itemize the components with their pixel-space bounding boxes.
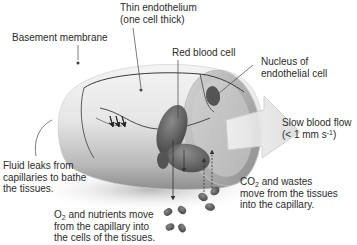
co2-wastes-label: CO2 and wastes move from the tissues int… <box>240 176 338 211</box>
thin-endothelium-label: Thin endothelium (one cell thick) <box>120 2 197 25</box>
capillary-diagram: Thin endothelium (one cell thick) Baseme… <box>0 0 357 245</box>
basement-membrane-label: Basement membrane <box>12 32 108 44</box>
slow-blood-flow-label: Slow blood flow (< 1 mm s-1) <box>282 117 351 140</box>
fluid-leaks-label: Fluid leaks from capillaries to bathe th… <box>3 160 86 195</box>
red-blood-cell-label: Red blood cell <box>172 47 235 59</box>
o2-nutrients-label: O2 and nutrients move from the capillary… <box>54 209 155 244</box>
nucleus-label: Nucleus of endothelial cell <box>261 56 327 79</box>
